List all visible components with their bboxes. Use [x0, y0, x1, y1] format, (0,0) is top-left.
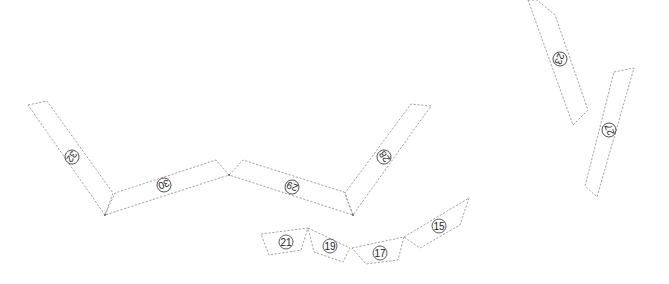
segment-number: 17	[374, 248, 386, 259]
vertex-dot-icon	[104, 214, 106, 216]
diagram-canvas: 32302928211917152327	[0, 0, 669, 284]
vertices-layer	[104, 174, 354, 216]
segment-27-label: 27	[600, 121, 618, 139]
segment-15-label: 15	[432, 219, 446, 233]
segments-layer	[28, 0, 634, 264]
segment-17-label: 17	[373, 246, 387, 260]
segment-number: 19	[324, 241, 336, 252]
segment-number: 15	[433, 221, 445, 232]
segment-21-label: 21	[279, 235, 293, 249]
segment-number: 23	[552, 52, 566, 67]
segment-number: 29	[285, 179, 300, 193]
segment-19-label: 19	[323, 239, 337, 253]
segment-number: 21	[280, 237, 292, 248]
vertex-dot-icon	[352, 214, 354, 216]
labels-layer: 32302928211917152327	[62, 50, 618, 260]
vertex-dot-icon	[228, 174, 230, 176]
segment-23-label: 23	[551, 50, 569, 68]
segment-32-label: 32	[62, 147, 81, 166]
